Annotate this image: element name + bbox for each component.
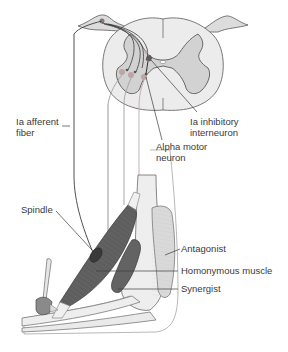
label-ia-afferent-line2: fiber <box>16 128 59 139</box>
alpha-motor-neuron-1 <box>119 69 125 75</box>
label-ia-inhibitory-line1: Ia inhibitory <box>190 117 239 128</box>
arm <box>22 150 178 334</box>
label-ia-afferent-fiber: Ia afferent fiber <box>16 117 59 138</box>
label-alpha-motor-line1: Alpha motor <box>156 142 207 153</box>
label-spindle: Spindle <box>21 205 53 216</box>
spinal-cord <box>78 15 248 110</box>
label-ia-inhibitory-interneuron: Ia inhibitory interneuron <box>190 117 239 138</box>
diagram-artwork <box>0 0 288 352</box>
label-antagonist: Antagonist <box>181 244 226 255</box>
ia-afferent-fiber <box>74 21 102 268</box>
stretch-reflex-diagram: Ia afferent fiber Ia inhibitory interneu… <box>0 0 288 352</box>
alpha-motor-neuron-2 <box>128 72 134 78</box>
label-ia-afferent-line1: Ia afferent <box>16 117 59 128</box>
label-synergist: Synergist <box>181 284 221 295</box>
label-alpha-motor-neuron: Alpha motor neuron <box>156 142 207 163</box>
label-ia-inhibitory-line2: interneuron <box>190 128 239 139</box>
label-alpha-motor-line2: neuron <box>156 153 207 164</box>
label-homonymous-muscle: Homonymous muscle <box>181 266 272 277</box>
reflex-hammer <box>36 259 58 315</box>
